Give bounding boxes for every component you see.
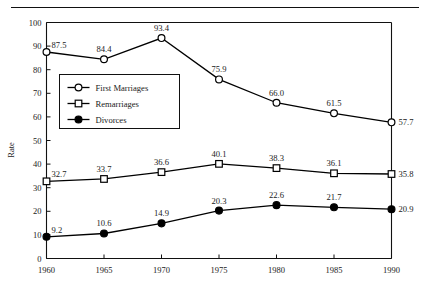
data-label: 87.5 (52, 40, 67, 50)
series-marker (43, 178, 50, 185)
y-tick-label: 0 (37, 254, 41, 264)
series-marker (43, 49, 50, 56)
x-tick-label: 1965 (96, 265, 113, 275)
chart-legend[interactable]: First MarriagesRemarriagesDivorces (60, 75, 180, 129)
line-chart-plot: 0102030405060708090100 19601965197019751… (0, 0, 430, 293)
legend-item[interactable]: First Marriages (68, 83, 149, 93)
series-marker (158, 169, 165, 176)
data-label: 33.7 (96, 164, 112, 174)
y-tick-label: 100 (29, 18, 42, 28)
x-tick-label: 1960 (38, 265, 55, 275)
legend-label: Divorces (96, 115, 128, 125)
series-marker (388, 171, 395, 178)
y-tick-label: 70 (33, 88, 42, 98)
series-marker (101, 56, 108, 63)
series-marker (273, 99, 280, 106)
data-label: 20.3 (211, 196, 226, 206)
series-marker (158, 220, 165, 227)
data-label: 14.9 (154, 208, 169, 218)
legend-item[interactable]: Remarriages (68, 99, 140, 109)
series-marker (158, 35, 165, 42)
y-tick-label: 90 (33, 41, 42, 51)
x-tick-label: 1985 (326, 265, 343, 275)
series-marker (216, 76, 223, 83)
y-tick-label: 20 (33, 206, 42, 216)
x-tick-label: 1980 (268, 265, 285, 275)
x-tick-label: 1970 (153, 265, 170, 275)
y-tick-label: 30 (33, 183, 42, 193)
series-marker (101, 230, 108, 237)
data-label: 10.6 (96, 218, 112, 228)
series-marker (273, 165, 280, 172)
series-marker (216, 207, 223, 214)
data-label: 9.2 (52, 225, 63, 235)
y-tick-label: 50 (33, 136, 42, 146)
y-tick-label: 10 (33, 230, 42, 240)
series-marker (216, 161, 223, 168)
series-marker (331, 110, 338, 117)
y-axis-ticks (47, 23, 51, 259)
y-tick-label: 40 (33, 159, 42, 169)
series-marker (331, 170, 338, 177)
y-tick-label: 60 (33, 112, 42, 122)
x-tick-label: 1990 (383, 265, 400, 275)
data-label: 75.9 (211, 64, 226, 74)
series-marker (43, 233, 50, 240)
x-axis-tick-labels: 1960196519701975198019851990 (38, 265, 400, 275)
series-marker (388, 119, 395, 126)
y-axis-title-text: Rate (6, 142, 16, 158)
data-label: 84.4 (96, 44, 112, 54)
data-label: 57.7 (399, 117, 415, 127)
y-tick-label: 80 (33, 65, 42, 75)
data-label: 22.6 (269, 190, 285, 200)
series-marker (331, 204, 338, 211)
legend-label: First Marriages (96, 83, 149, 93)
series-marker (388, 206, 395, 213)
data-label: 66.0 (269, 88, 284, 98)
legend-label: Remarriages (96, 99, 140, 109)
data-label: 38.3 (269, 153, 284, 163)
data-label: 40.1 (211, 149, 226, 159)
data-label: 35.8 (399, 169, 414, 179)
x-axis-ticks (47, 255, 392, 259)
series-marker (101, 176, 108, 183)
data-label: 21.7 (326, 192, 342, 202)
data-label: 36.6 (154, 157, 170, 167)
data-label: 32.7 (52, 169, 68, 179)
x-tick-label: 1975 (211, 265, 228, 275)
chart-figure: 0102030405060708090100 19601965197019751… (0, 0, 430, 293)
y-axis-tick-labels: 0102030405060708090100 (29, 18, 42, 264)
data-label: 36.1 (326, 158, 341, 168)
series-marker (273, 202, 280, 209)
data-label: 93.4 (154, 23, 170, 33)
y-axis-title: Rate (6, 142, 16, 158)
data-label: 20.9 (399, 204, 414, 214)
data-label: 61.5 (326, 98, 341, 108)
